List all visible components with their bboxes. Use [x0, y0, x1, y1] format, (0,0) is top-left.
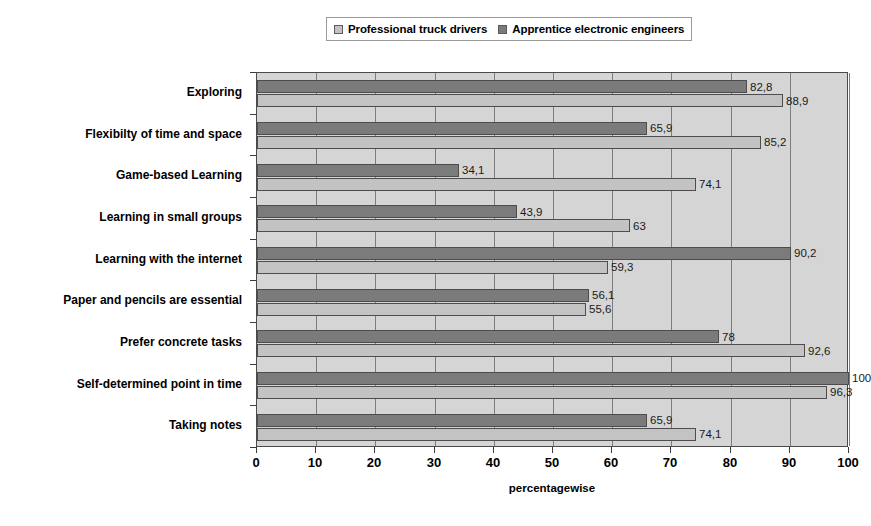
x-axis-tick: [670, 447, 671, 453]
y-axis: ExploringFlexibilty of time and spaceGam…: [0, 72, 250, 447]
bar[interactable]: [257, 178, 696, 191]
x-axis-tick-label: 20: [367, 455, 381, 470]
bar-value-label: 100: [852, 372, 871, 384]
bar[interactable]: [257, 303, 586, 316]
bar-value-label: 74,1: [699, 428, 721, 440]
bar-value-label: 56,1: [592, 289, 614, 301]
bar[interactable]: [257, 136, 761, 149]
bar-series-container: 82,888,965,985,234,174,143,96390,259,356…: [257, 73, 847, 446]
bar[interactable]: [257, 247, 791, 260]
bar-group: 82,888,9: [257, 73, 847, 115]
bar-value-label: 55,6: [589, 303, 611, 315]
bar[interactable]: [257, 94, 783, 107]
x-axis-tick: [848, 447, 849, 453]
x-axis-tick-label: 30: [427, 455, 441, 470]
legend-swatch-icon: [498, 25, 507, 34]
chart-legend: Professional truck driversApprentice ele…: [326, 17, 692, 41]
y-axis-category-label: Taking notes: [169, 419, 242, 432]
x-axis-tick-label: 50: [545, 455, 559, 470]
bar-group: 7892,6: [257, 323, 847, 365]
bar-group: 65,985,2: [257, 115, 847, 157]
x-axis-tick-label: 70: [663, 455, 677, 470]
bar[interactable]: [257, 289, 589, 302]
bar-value-label: 92,6: [808, 345, 830, 357]
plot-area: 82,888,965,985,234,174,143,96390,259,356…: [256, 72, 848, 447]
x-axis-tick: [315, 447, 316, 453]
x-axis-tick-labels: 0102030405060708090100: [256, 455, 848, 473]
x-axis-tick: [493, 447, 494, 453]
bar-group: 90,259,3: [257, 240, 847, 282]
bar-value-label: 74,1: [699, 178, 721, 190]
x-axis-ticks: [256, 447, 848, 454]
bar[interactable]: [257, 261, 608, 274]
x-axis-tick-label: 100: [837, 455, 859, 470]
y-axis-category-label: Learning in small groups: [99, 211, 242, 224]
y-axis-category-label: Self-determined point in time: [77, 378, 242, 391]
y-axis-category-label: Flexibilty of time and space: [85, 128, 242, 141]
bar[interactable]: [257, 330, 719, 343]
bar-value-label: 43,9: [520, 206, 542, 218]
x-axis-tick: [374, 447, 375, 453]
bar[interactable]: [257, 414, 647, 427]
bar[interactable]: [257, 344, 805, 357]
bar-value-label: 85,2: [764, 136, 786, 148]
bar-value-label: 34,1: [462, 164, 484, 176]
x-axis-tick-label: 80: [723, 455, 737, 470]
legend-swatch-icon: [334, 25, 343, 34]
bar[interactable]: [257, 219, 630, 232]
x-axis-tick: [789, 447, 790, 453]
bar[interactable]: [257, 386, 827, 399]
y-axis-category-label: Paper and pencils are essential: [63, 294, 242, 307]
y-axis-category-label: Prefer concrete tasks: [120, 336, 242, 349]
bar-value-label: 82,8: [750, 81, 772, 93]
bar[interactable]: [257, 80, 747, 93]
bar-group: 56,155,6: [257, 281, 847, 323]
y-axis-category-label: Exploring: [187, 86, 242, 99]
bar-group: 10096,3: [257, 365, 847, 407]
bar-value-label: 65,9: [650, 414, 672, 426]
bar-value-label: 63: [633, 220, 646, 232]
x-axis-tick: [730, 447, 731, 453]
bar-value-label: 88,9: [786, 95, 808, 107]
bar[interactable]: [257, 372, 849, 385]
x-axis-tick-label: 90: [782, 455, 796, 470]
bar-value-label: 78: [722, 331, 735, 343]
bar[interactable]: [257, 164, 459, 177]
x-axis-tick: [611, 447, 612, 453]
y-axis-category-label: Learning with the internet: [95, 253, 242, 266]
legend-label: Apprentice electronic engineers: [512, 23, 684, 35]
bar-value-label: 90,2: [794, 247, 816, 259]
bar[interactable]: [257, 205, 517, 218]
legend-entry[interactable]: Professional truck drivers: [334, 23, 487, 35]
bar-group: 65,974,1: [257, 406, 847, 448]
legend-entry[interactable]: Apprentice electronic engineers: [498, 23, 684, 35]
bar[interactable]: [257, 122, 647, 135]
x-axis-tick-label: 60: [604, 455, 618, 470]
x-axis-tick-label: 0: [252, 455, 259, 470]
x-axis-tick-label: 10: [308, 455, 322, 470]
bar-group: 43,963: [257, 198, 847, 240]
x-axis-tick: [256, 447, 257, 453]
legend-label: Professional truck drivers: [348, 23, 487, 35]
x-axis-title: percentagewise: [256, 482, 848, 495]
bar-value-label: 65,9: [650, 122, 672, 134]
x-axis-tick-label: 40: [486, 455, 500, 470]
bar-value-label: 96,3: [830, 386, 852, 398]
x-axis-tick: [434, 447, 435, 453]
bar-group: 34,174,1: [257, 156, 847, 198]
bar[interactable]: [257, 428, 696, 441]
bar-value-label: 59,3: [611, 261, 633, 273]
y-axis-category-label: Game-based Learning: [116, 169, 242, 182]
x-axis-tick: [552, 447, 553, 453]
